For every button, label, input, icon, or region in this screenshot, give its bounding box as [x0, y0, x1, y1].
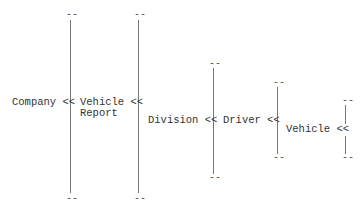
bracket-1-bottom: -- — [66, 194, 78, 204]
bracket-1-top: -- — [66, 10, 78, 20]
node-vehicle-report-line2: Report — [80, 108, 118, 119]
node-driver: Driver << — [223, 115, 280, 126]
bracket-4-top: -- — [273, 78, 285, 88]
bracket-3-top: -- — [209, 59, 221, 69]
node-company: Company << — [12, 97, 75, 108]
bracket-5-line-upper — [345, 105, 346, 124]
node-division: Division << — [148, 115, 217, 126]
bracket-2-bottom: -- — [134, 194, 146, 204]
node-vehicle: Vehicle << — [286, 124, 349, 135]
bracket-3-bottom: -- — [209, 173, 221, 183]
bracket-5-bottom: -- — [342, 153, 354, 163]
bracket-4-bottom: -- — [273, 153, 285, 163]
bracket-2-top: -- — [134, 10, 146, 20]
bracket-5-top: -- — [342, 96, 354, 106]
